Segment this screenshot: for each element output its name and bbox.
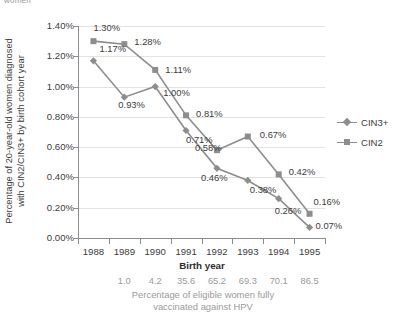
x-axis-title: Birth year [78, 260, 326, 271]
cut-off-caption-text: women [4, 0, 31, 4]
x-tick-mark [109, 239, 110, 244]
x-tick-label: 1995 [290, 246, 330, 257]
data-label: 0.67% [260, 129, 287, 140]
y-axis-title-line-2: with CIN2/CIN3+ by birth cohort year [15, 20, 27, 242]
x-tick-mark [232, 239, 233, 244]
data-label: 0.93% [118, 99, 145, 110]
y-tick-label: 0.40% [34, 171, 74, 182]
legend-item-cin2[interactable]: CIN2 [337, 132, 399, 152]
legend-label-cin2: CIN2 [361, 137, 383, 148]
chart-legend: CIN3+ CIN2 [337, 112, 399, 152]
x-tick-mark [202, 239, 203, 244]
y-axis-tick-labels: 0.00%0.20%0.40%0.60%0.80%1.00%1.20%1.40% [30, 26, 74, 239]
data-label: 0.07% [316, 220, 343, 231]
y-axis-title-line-1: Percentage of 20-year-old women diagnose… [3, 20, 15, 242]
data-label: 1.00% [163, 87, 190, 98]
data-label: 0.26% [275, 205, 302, 216]
square-marker-icon [337, 137, 357, 147]
data-point-marker[interactable] [276, 171, 282, 177]
data-point-marker[interactable] [183, 112, 189, 118]
secondary-axis-title-line-2: vaccinated against HPV [78, 301, 328, 313]
data-label: 1.30% [93, 22, 120, 33]
x-tick-mark [263, 239, 264, 244]
y-tick-label: 0.20% [34, 202, 74, 213]
data-label: 1.17% [99, 43, 126, 54]
data-label: 1.11% [165, 64, 191, 75]
data-label: 0.16% [314, 196, 341, 207]
x-tick-mark [171, 239, 172, 244]
data-point-marker[interactable] [244, 177, 251, 184]
data-point-marker[interactable] [307, 211, 313, 217]
data-point-marker[interactable] [152, 67, 158, 73]
y-tick-label: 0.60% [34, 141, 74, 152]
data-label: 0.42% [289, 166, 316, 177]
chart-root: women Percentage of 20-year-old women di… [0, 0, 400, 325]
secondary-axis-title-line-1: Percentage of eligible women fully [78, 289, 328, 301]
data-label: 0.58% [195, 142, 222, 153]
x-axis-tick-labels: 19881989199019911992199319941995 [58, 246, 348, 260]
data-point-marker[interactable] [245, 134, 251, 140]
legend-item-cin3plus[interactable]: CIN3+ [337, 112, 399, 132]
y-axis-title: Percentage of 20-year-old women diagnose… [0, 18, 30, 243]
x-tick-mark [140, 239, 141, 244]
y-tick-label: 1.00% [34, 81, 74, 92]
data-label: 0.38% [250, 184, 277, 195]
series-line-cin2 [93, 41, 309, 214]
y-tick-label: 0.00% [34, 232, 74, 243]
y-tick-label: 0.80% [34, 111, 74, 122]
y-tick-label: 1.20% [34, 50, 74, 61]
secondary-axis-values: 1.04.235.665.269.370.186.5 [58, 276, 348, 290]
legend-label-cin3plus: CIN3+ [361, 117, 388, 128]
secondary-axis-value: 86.5 [290, 276, 330, 286]
data-label: 0.81% [196, 108, 223, 119]
data-point-marker[interactable] [90, 38, 96, 44]
x-tick-mark [78, 239, 79, 244]
diamond-marker-icon [337, 117, 357, 127]
x-tick-mark [325, 239, 326, 244]
x-tick-mark [294, 239, 295, 244]
x-axis-ticks [78, 239, 326, 245]
data-label: 0.46% [201, 172, 228, 183]
y-tick-label: 1.40% [34, 20, 74, 31]
data-label: 1.28% [134, 36, 161, 47]
secondary-axis-title: Percentage of eligible women fully vacci… [78, 289, 328, 313]
